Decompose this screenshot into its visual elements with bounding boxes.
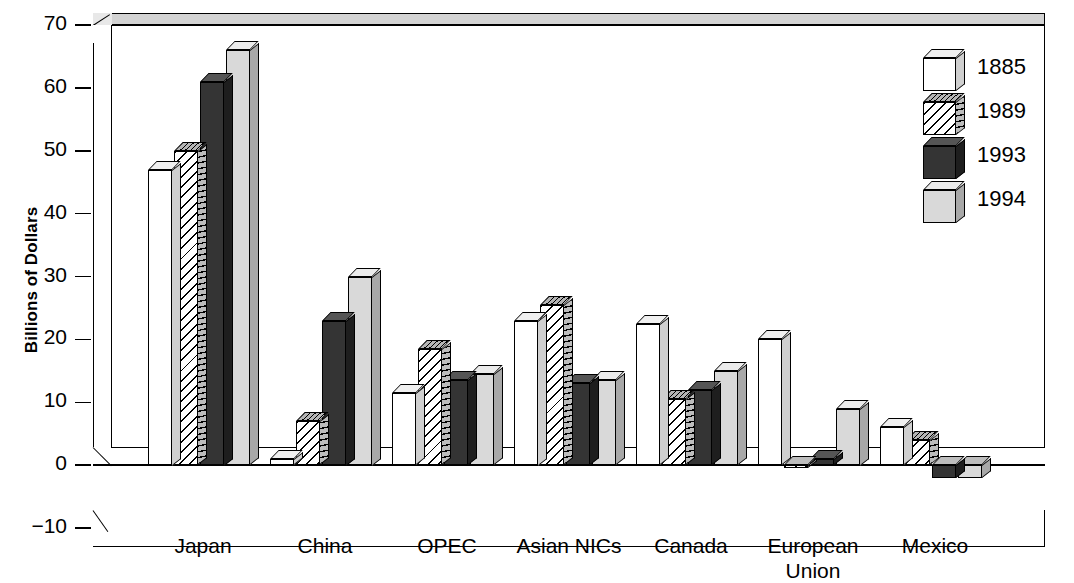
- y-axis-tick-label: 0: [5, 451, 67, 475]
- bar-side: [372, 269, 381, 465]
- bar-side: [442, 342, 451, 465]
- legend: 1885198919931994: [915, 52, 1065, 228]
- bar-side: [860, 401, 869, 465]
- bar-side: [782, 332, 791, 465]
- legend-item[interactable]: 1994: [915, 184, 1065, 228]
- bar-face: [932, 465, 956, 478]
- bar-face: [514, 321, 538, 466]
- bar-side: [494, 367, 503, 465]
- bar: [392, 393, 416, 465]
- legend-swatch: [923, 102, 956, 135]
- bar-side: [346, 313, 355, 465]
- bar: [880, 427, 904, 465]
- legend-swatch-face: [923, 190, 956, 223]
- bar: [758, 339, 782, 465]
- bar-side: [712, 383, 721, 465]
- bar-side: [660, 317, 669, 466]
- bar-face: [880, 427, 904, 465]
- legend-item[interactable]: 1885: [915, 52, 1065, 96]
- bar-side: [320, 414, 329, 465]
- legend-item[interactable]: 1993: [915, 140, 1065, 184]
- legend-swatch-side: [956, 183, 965, 223]
- y-axis-tick-label: 20: [5, 325, 67, 349]
- bar-face: [392, 393, 416, 465]
- chart-floor-right-edge: [1044, 510, 1045, 547]
- bar: [270, 459, 294, 465]
- legend-swatch-side: [956, 139, 965, 179]
- bar: [932, 465, 956, 478]
- legend-swatch: [923, 190, 956, 223]
- legend-label: 1989: [977, 98, 1026, 124]
- legend-item[interactable]: 1989: [915, 96, 1065, 140]
- bar-side: [564, 298, 573, 465]
- bar-side: [224, 75, 233, 466]
- bar: [148, 170, 172, 466]
- bar-side: [468, 373, 477, 465]
- legend-label: 1993: [977, 142, 1026, 168]
- y-axis-tick: [75, 150, 91, 152]
- y-axis-tick: [75, 402, 91, 404]
- legend-swatch-face: [923, 146, 956, 179]
- bar-face: [636, 324, 660, 465]
- bar-side: [616, 373, 625, 465]
- legend-label: 1885: [977, 54, 1026, 80]
- bar-side: [538, 313, 547, 465]
- legend-swatch-side: [956, 51, 965, 91]
- y-axis-tick-label: −10: [5, 514, 67, 538]
- bar-side: [416, 386, 425, 465]
- bar-side: [904, 420, 913, 465]
- y-axis-tick-label: 50: [5, 137, 67, 161]
- legend-swatch-side: [956, 95, 965, 135]
- y-axis-tick: [75, 527, 91, 529]
- y-axis-tick: [75, 464, 91, 466]
- plot-area: [93, 25, 1045, 528]
- legend-swatch: [923, 58, 956, 91]
- bar-face: [148, 170, 172, 466]
- x-axis-label: Mexico: [850, 533, 1020, 558]
- bar-side: [172, 163, 181, 466]
- y-axis-tick: [75, 87, 91, 89]
- legend-swatch-face: [923, 102, 956, 135]
- y-axis-tick-label: 10: [5, 388, 67, 412]
- y-axis-tick: [75, 276, 91, 278]
- legend-swatch-face: [923, 58, 956, 91]
- x-axis-label-line: Mexico: [850, 533, 1020, 558]
- bar: [514, 321, 538, 466]
- y-axis-tick-label: 40: [5, 200, 67, 224]
- bar-face: [758, 339, 782, 465]
- bar: [636, 324, 660, 465]
- bar-face: [270, 459, 294, 465]
- legend-swatch: [923, 146, 956, 179]
- y-axis-tick: [75, 213, 91, 215]
- bar-side: [686, 392, 695, 465]
- y-axis-tick-label: 60: [5, 74, 67, 98]
- chart-top-edge: [111, 13, 1045, 25]
- bar-side: [738, 364, 747, 465]
- bar-side: [590, 376, 599, 465]
- bar-face: [784, 465, 808, 468]
- bar-side: [198, 144, 207, 465]
- y-axis-tick-label: 30: [5, 263, 67, 287]
- y-axis-tick: [75, 339, 91, 341]
- y-axis-tick-label: 70: [5, 11, 67, 35]
- bar-side: [250, 43, 259, 465]
- bar: [784, 465, 808, 468]
- legend-label: 1994: [977, 186, 1026, 212]
- x-axis-label-line: Union: [728, 558, 898, 583]
- bar-chart: Billions of Dollars −10010203040506070 J…: [0, 0, 1074, 583]
- y-axis-tick: [75, 24, 91, 26]
